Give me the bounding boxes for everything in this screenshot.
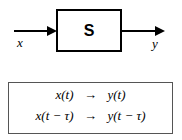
equation-row: x(t) → y(t): [9, 87, 172, 108]
equation-lhs: x(t): [12, 87, 74, 103]
figure-canvas: x S y x(t) → y(t) x(t − τ) → y(t − τ): [0, 0, 182, 140]
equation-lhs: x(t − τ): [12, 108, 74, 124]
output-arrow-right-icon: [155, 26, 165, 36]
block-diagram: x S y: [0, 0, 182, 72]
input-arrow-shaft: [14, 30, 48, 32]
system-block-label: S: [58, 11, 120, 50]
maps-to-arrow-icon: →: [74, 108, 108, 124]
output-signal-label: y: [152, 37, 158, 50]
equation-panel: x(t) → y(t) x(t − τ) → y(t − τ): [8, 82, 173, 134]
maps-to-arrow-icon: →: [74, 87, 108, 103]
equation-row: x(t − τ) → y(t − τ): [9, 108, 172, 129]
input-signal-label: x: [17, 36, 23, 49]
output-arrow-shaft: [122, 30, 156, 32]
system-block: S: [56, 9, 122, 52]
equation-rhs: y(t): [108, 87, 170, 103]
equation-rhs: y(t − τ): [108, 108, 170, 124]
